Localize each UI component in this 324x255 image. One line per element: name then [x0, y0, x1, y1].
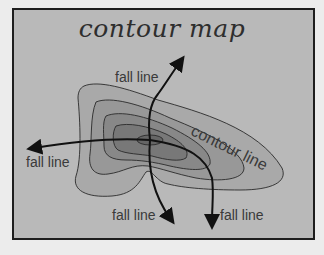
diagram-title: contour map — [0, 14, 324, 43]
label-fall-line-bottom-left: fall line — [112, 207, 156, 223]
label-fall-line-bottom-right: fall line — [220, 207, 264, 223]
label-fall-line-left: fall line — [26, 154, 70, 170]
label-fall-line-top: fall line — [115, 69, 159, 85]
